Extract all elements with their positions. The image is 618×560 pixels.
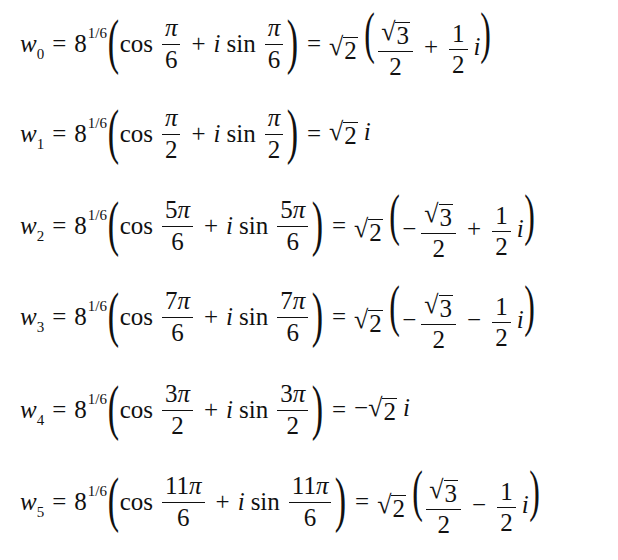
sign: + xyxy=(424,33,438,60)
lhs-variable: w5 xyxy=(20,488,44,516)
cos-argument: π 6 xyxy=(162,15,181,73)
cos-argument: 3π 2 xyxy=(162,381,193,439)
lhs-subscript: 4 xyxy=(37,412,45,428)
base: 8 xyxy=(74,488,87,516)
imaginary-part: 12 xyxy=(492,203,511,261)
right-paren: ) xyxy=(312,376,323,438)
equation-row: w2 = 81/6 ( cos 5π 6 + i sin 5π 6 ) = √2… xyxy=(20,186,535,266)
lhs-subscript: 3 xyxy=(37,319,45,335)
equals-sign: = xyxy=(355,488,369,516)
right-paren: ) xyxy=(287,10,298,72)
imaginary-unit: i xyxy=(214,30,221,58)
equals-sign: = xyxy=(332,396,346,424)
equation-row: w4 = 81/6 ( cos 3π 2 + i sin 3π 2 ) = −√… xyxy=(20,370,410,450)
sqrt-three: √3 xyxy=(381,19,410,49)
minus-sign: − xyxy=(402,306,416,333)
sqrt-coefficient: √2 xyxy=(329,34,358,64)
result: √2(√32+12i) xyxy=(329,7,492,80)
equals-sign: = xyxy=(307,120,321,148)
left-paren: ( xyxy=(108,468,119,530)
equals-sign: = xyxy=(52,303,66,331)
equals-sign: = xyxy=(332,212,346,240)
plus-sign: + xyxy=(191,120,205,148)
result: √2i xyxy=(329,118,371,149)
result: √2(−√32−12i) xyxy=(354,280,535,353)
plus-sign: + xyxy=(204,396,218,424)
imaginary-part: 12 xyxy=(497,479,516,537)
imaginary-unit: i xyxy=(238,488,245,516)
plus-sign: + xyxy=(191,30,205,58)
exponent: 1/6 xyxy=(88,115,107,132)
sin-label: sin xyxy=(239,303,268,331)
result: √2(√32−12i) xyxy=(377,465,540,538)
sqrt-three: √3 xyxy=(424,292,453,322)
sin-argument: 3π 2 xyxy=(277,381,308,439)
cos-argument: 11π 6 xyxy=(162,473,205,531)
right-paren: ) xyxy=(524,277,535,335)
right-paren: ) xyxy=(529,462,540,520)
sqrt-coefficient: √2 xyxy=(354,216,383,246)
plus-sign: + xyxy=(204,303,218,331)
cos-label: cos xyxy=(120,488,153,516)
sin-label: sin xyxy=(251,488,280,516)
lhs-subscript: 0 xyxy=(37,46,45,62)
exponent: 1/6 xyxy=(88,391,107,408)
cos-label: cos xyxy=(120,30,153,58)
left-paren: ( xyxy=(108,376,119,438)
exponent: 1/6 xyxy=(88,25,107,42)
sqrt-coefficient: √2 xyxy=(377,492,406,522)
sign: + xyxy=(467,215,481,242)
equals-sign: = xyxy=(52,396,66,424)
imaginary-part: 12 xyxy=(492,294,511,352)
equals-sign: = xyxy=(332,303,346,331)
plus-sign: + xyxy=(216,488,230,516)
right-paren: ) xyxy=(524,186,535,244)
left-paren: ( xyxy=(108,192,119,254)
right-paren: ) xyxy=(312,283,323,345)
equation-row: w3 = 81/6 ( cos 7π 6 + i sin 7π 6 ) = √2… xyxy=(20,277,535,357)
lhs-subscript: 2 xyxy=(37,228,45,244)
sqrt-three: √3 xyxy=(429,477,458,507)
lhs-variable: w1 xyxy=(20,120,44,148)
cos-argument: 5π 6 xyxy=(162,197,193,255)
equation-row: w1 = 81/6 ( cos π 2 + i sin π 2 ) = √2i xyxy=(20,94,371,174)
imaginary-unit: i xyxy=(517,306,524,333)
sin-label: sin xyxy=(227,30,256,58)
left-paren: ( xyxy=(108,100,119,162)
minus-sign: − xyxy=(354,394,368,421)
imaginary-unit: i xyxy=(226,212,233,240)
sign: − xyxy=(472,491,486,518)
exponent: 1/6 xyxy=(88,483,107,500)
sqrt-coefficient: √2 xyxy=(354,307,383,337)
lhs-variable: w3 xyxy=(20,303,44,331)
sin-label: sin xyxy=(239,396,268,424)
equals-sign: = xyxy=(52,212,66,240)
equals-sign: = xyxy=(52,488,66,516)
cos-argument: 7π 6 xyxy=(162,288,193,346)
base: 8 xyxy=(74,30,87,58)
cos-label: cos xyxy=(120,120,153,148)
imaginary-unit: i xyxy=(403,394,410,421)
minus-sign: − xyxy=(402,215,416,242)
plus-sign: + xyxy=(204,212,218,240)
real-part: √32 xyxy=(426,477,461,539)
left-paren: ( xyxy=(364,4,375,62)
right-paren: ) xyxy=(287,100,298,162)
equation-row: w5 = 81/6 ( cos 11π 6 + i sin 11π 6 ) = … xyxy=(20,462,540,542)
lhs-subscript: 5 xyxy=(37,504,45,520)
base: 8 xyxy=(74,120,87,148)
result: √2(−√32+12i) xyxy=(354,189,535,262)
sin-argument: 11π 6 xyxy=(289,473,332,531)
cos-label: cos xyxy=(120,396,153,424)
sin-label: sin xyxy=(227,120,256,148)
real-part: √32 xyxy=(421,292,456,354)
lhs-variable: w0 xyxy=(20,30,44,58)
sign: − xyxy=(467,306,481,333)
left-paren: ( xyxy=(108,10,119,72)
lhs-subscript: 1 xyxy=(37,136,45,152)
sin-label: sin xyxy=(239,212,268,240)
imaginary-unit: i xyxy=(517,215,524,242)
right-paren: ) xyxy=(312,192,323,254)
left-paren: ( xyxy=(412,462,423,520)
left-paren: ( xyxy=(389,186,400,244)
